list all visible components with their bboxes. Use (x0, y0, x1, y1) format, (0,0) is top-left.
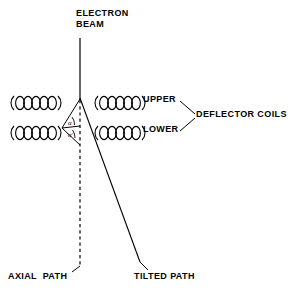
electron-beam-label-line1: ELECTRON (76, 8, 129, 18)
tilted-path-label: TILTED PATH (134, 271, 195, 282)
angle-alpha-label: α (68, 119, 72, 127)
tilted-path-leader (140, 262, 148, 270)
deflector-coils-label: DEFLECTOR COILS (196, 109, 287, 120)
right-lower-coil (95, 126, 145, 140)
diagram-canvas: ELECTRONBEAM UPPER LOWER DEFLECTOR COILS… (0, 0, 295, 299)
upper-label-leader (180, 101, 195, 114)
electron-beam-label-line2: BEAM (76, 19, 104, 29)
right-upper-coil (95, 96, 145, 110)
lower-coil-label: LOWER (143, 124, 179, 135)
electron-beam-label: ELECTRONBEAM (76, 8, 129, 30)
axial-path-label: AXIAL PATH (8, 271, 67, 282)
upper-coil-label: UPPER (143, 94, 176, 105)
lower-label-leader (180, 118, 195, 131)
axial-path-leader (72, 266, 80, 272)
left-lower-coil (11, 126, 61, 140)
angle-alpha-prime-label: α' (68, 131, 73, 139)
diagram-vector-layer (0, 0, 295, 299)
tilted-path-line (80, 98, 140, 262)
angle-arc-alpha (72, 117, 75, 125)
left-upper-coil (11, 96, 61, 110)
